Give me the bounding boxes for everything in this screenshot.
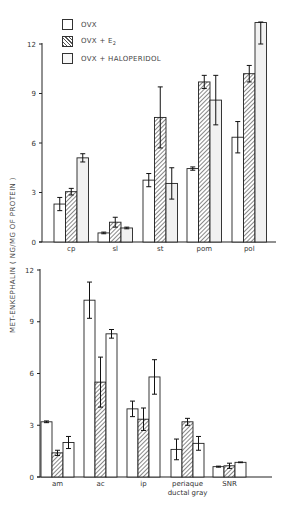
y-tick-label: 9 bbox=[30, 318, 34, 326]
y-tick-label: 9 bbox=[32, 90, 36, 98]
legend-swatch-ovx bbox=[62, 19, 73, 30]
bar-ip-series-0 bbox=[127, 409, 138, 477]
bar-sl-series-2 bbox=[121, 228, 133, 242]
y-tick-label: 3 bbox=[30, 422, 34, 430]
legend-label-ovx: OVX bbox=[81, 21, 97, 29]
x-category-label: cp bbox=[67, 245, 76, 253]
legend-item-ovx-haloperidol: OVX + HALOPERIDOL bbox=[62, 50, 161, 67]
x-category-label: SNR bbox=[222, 480, 237, 488]
bar-st-series-0 bbox=[143, 180, 155, 242]
figure: 036912cpslstpompol 036912amacipperiaqued… bbox=[0, 0, 292, 511]
y-tick-label: 6 bbox=[32, 140, 37, 148]
legend-label-subscript: 2 bbox=[113, 40, 116, 46]
y-tick-label: 0 bbox=[30, 474, 34, 482]
x-category-label: sl bbox=[112, 245, 118, 253]
y-tick-label: 3 bbox=[32, 189, 36, 197]
legend-label-ovx-e2: OVX + E2 bbox=[81, 37, 116, 46]
y-tick-label: 12 bbox=[25, 267, 34, 275]
y-tick-label: 0 bbox=[32, 239, 36, 247]
bar-pom-series-0 bbox=[187, 169, 199, 242]
bar-pom-series-1 bbox=[199, 82, 211, 242]
legend-swatch-ovx-haloperidol bbox=[62, 53, 73, 64]
legend-swatch-ovx-e2 bbox=[62, 36, 73, 47]
bar-SNR-series-0 bbox=[213, 467, 224, 477]
x-category-label: ac bbox=[96, 480, 104, 488]
legend-item-ovx-e2: OVX + E2 bbox=[62, 33, 161, 50]
x-category-label: periaque bbox=[172, 480, 203, 488]
bar-pol-series-2 bbox=[255, 23, 267, 242]
y-tick-label: 6 bbox=[30, 370, 35, 378]
x-category-label: ip bbox=[140, 480, 147, 488]
bar-periaque-ductal-gray-series-1 bbox=[182, 422, 193, 477]
bar-pol-series-1 bbox=[244, 74, 256, 242]
x-category-label: st bbox=[157, 245, 164, 253]
bottom-panel-chart: 036912amacipperiaqueductal graySNR bbox=[25, 267, 272, 498]
x-category-label: pol bbox=[244, 245, 255, 253]
bar-cp-series-1 bbox=[66, 192, 78, 242]
x-category-label: pom bbox=[196, 245, 212, 253]
bar-chart-figure: 036912cpslstpompol 036912amacipperiaqued… bbox=[0, 0, 292, 511]
legend-item-ovx: OVX bbox=[62, 16, 161, 33]
bar-sl-series-0 bbox=[98, 233, 110, 242]
x-category-label: am bbox=[52, 480, 63, 488]
y-tick-label: 12 bbox=[27, 41, 36, 49]
y-axis-label: MET-ENKEPHALIN ( NG/MG OF PROTEIN ) bbox=[9, 177, 17, 333]
legend: OVX OVX + E2 OVX + HALOPERIDOL bbox=[62, 16, 161, 67]
x-category-label: ductal gray bbox=[168, 489, 208, 497]
bar-ac-series-0 bbox=[84, 300, 95, 477]
bar-SNR-series-2 bbox=[235, 462, 246, 477]
bar-ac-series-2 bbox=[106, 334, 117, 477]
legend-label-ovx-e2-text: OVX + E bbox=[81, 37, 113, 45]
bar-am-series-1 bbox=[52, 453, 63, 477]
legend-label-ovx-haloperidol: OVX + HALOPERIDOL bbox=[81, 55, 161, 63]
bar-am-series-0 bbox=[41, 422, 52, 477]
bar-cp-series-2 bbox=[77, 158, 89, 242]
